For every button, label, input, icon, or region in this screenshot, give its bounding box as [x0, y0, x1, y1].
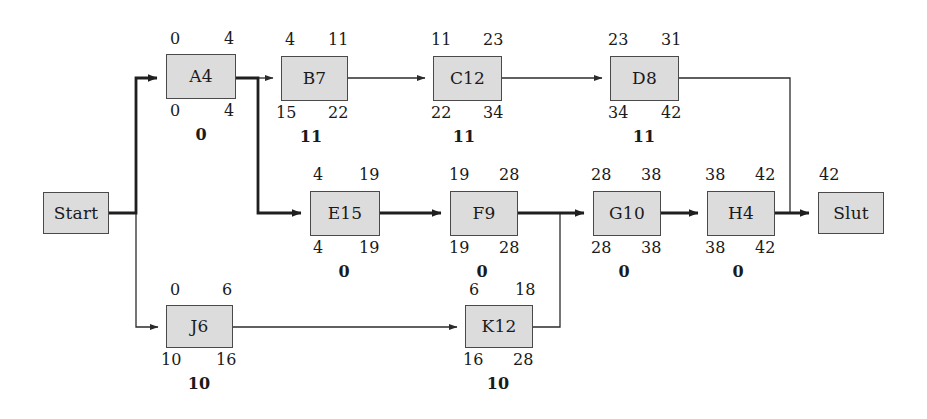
node-a4-slack: 0 [195, 127, 206, 143]
node-k12[interactable]: K12 [465, 305, 533, 348]
node-h4-es: 38 [705, 167, 725, 183]
node-k12-es: 6 [469, 282, 479, 298]
node-f9-lf: 28 [499, 240, 519, 256]
node-e15-label: E15 [328, 205, 363, 222]
node-a4-lf: 4 [224, 103, 234, 119]
node-d8-lf: 42 [661, 105, 681, 121]
node-j6-label: J6 [190, 318, 208, 335]
node-e15[interactable]: E15 [310, 191, 380, 236]
node-slut[interactable]: Slut [818, 192, 884, 234]
node-g10-lf: 38 [641, 240, 661, 256]
node-g10-es: 28 [591, 167, 611, 183]
node-f9-es: 19 [449, 167, 469, 183]
node-h4-slack: 0 [732, 264, 743, 280]
node-k12-ef: 18 [515, 282, 535, 298]
node-k12-slack: 10 [487, 376, 509, 392]
node-b7-label: B7 [303, 70, 327, 87]
node-a4-label: A4 [189, 68, 213, 85]
node-h4-lf: 42 [755, 240, 775, 256]
node-e15-lf: 19 [359, 240, 379, 256]
node-slut-label: Slut [833, 205, 869, 222]
node-j6-lf: 16 [216, 352, 236, 368]
node-j6-slack: 10 [188, 376, 210, 392]
node-f9[interactable]: F9 [450, 191, 518, 236]
node-c12-label: C12 [450, 70, 485, 87]
node-f9-label: F9 [472, 205, 495, 222]
node-b7-slack: 11 [300, 129, 322, 145]
node-d8-ls: 34 [608, 105, 628, 121]
node-j6-ef: 6 [222, 282, 232, 298]
node-b7-ef: 11 [328, 32, 348, 48]
node-a4[interactable]: A4 [166, 54, 236, 99]
node-d8-es: 23 [608, 32, 628, 48]
node-start[interactable]: Start [43, 192, 109, 234]
node-c12-es: 11 [431, 32, 451, 48]
node-slut-es: 42 [819, 167, 839, 183]
node-k12-label: K12 [482, 318, 517, 335]
edge-start-a4 [109, 78, 157, 213]
node-a4-es: 0 [170, 31, 180, 47]
node-h4-ls: 38 [705, 240, 725, 256]
edge-start-j6 [109, 213, 158, 327]
node-h4-label: H4 [728, 205, 754, 222]
node-e15-es: 4 [313, 167, 323, 183]
node-d8-slack: 11 [633, 129, 655, 145]
node-j6-es: 0 [170, 282, 180, 298]
node-c12-ls: 22 [431, 105, 451, 121]
node-e15-slack: 0 [338, 264, 349, 280]
node-j6-ls: 10 [161, 352, 181, 368]
node-c12-slack: 11 [453, 129, 475, 145]
node-a4-ef: 4 [224, 31, 234, 47]
node-g10-label: G10 [609, 205, 645, 222]
node-j6[interactable]: J6 [166, 305, 233, 348]
node-e15-ls: 4 [313, 240, 323, 256]
node-h4-ef: 42 [755, 167, 775, 183]
node-d8-label: D8 [632, 70, 657, 87]
node-k12-ls: 16 [463, 352, 483, 368]
node-g10-slack: 0 [618, 264, 629, 280]
edge-k12-g10 [533, 213, 560, 327]
node-b7-es: 4 [285, 32, 295, 48]
node-k12-lf: 28 [513, 352, 533, 368]
node-h4[interactable]: H4 [707, 191, 775, 236]
node-f9-ls: 19 [449, 240, 469, 256]
node-b7-ls: 15 [276, 105, 296, 121]
node-f9-ef: 28 [499, 167, 519, 183]
node-d8-ef: 31 [661, 32, 681, 48]
node-e15-ef: 19 [359, 167, 379, 183]
node-c12[interactable]: C12 [433, 56, 502, 101]
node-b7-lf: 22 [328, 105, 348, 121]
node-start-label: Start [54, 205, 99, 222]
node-c12-lf: 34 [483, 105, 503, 121]
node-a4-ls: 0 [170, 103, 180, 119]
node-g10-ls: 28 [591, 240, 611, 256]
node-g10[interactable]: G10 [593, 191, 661, 236]
network-diagram-canvas: Start A4 0 4 0 4 0 B7 4 11 15 22 11 C12 … [0, 0, 927, 419]
node-c12-ef: 23 [483, 32, 503, 48]
node-b7[interactable]: B7 [281, 56, 348, 101]
node-g10-ef: 38 [641, 167, 661, 183]
node-d8[interactable]: D8 [610, 56, 679, 101]
node-f9-slack: 0 [476, 264, 487, 280]
